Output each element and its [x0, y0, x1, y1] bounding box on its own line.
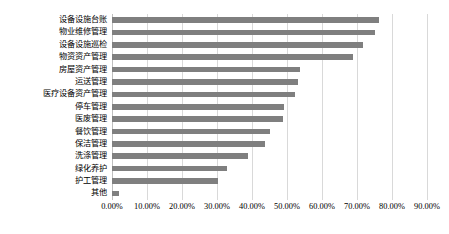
x-tick-label: 70.00% — [344, 201, 370, 213]
bar-row[interactable] — [112, 51, 427, 63]
x-tick-label: 50.00% — [274, 201, 300, 213]
bar-row[interactable] — [112, 76, 427, 88]
bar-row[interactable] — [112, 14, 427, 26]
category-axis-labels: 设备设施台账物业维修管理设备设施巡检物资资产管理房屋资产管理运送管理医疗设备资产… — [0, 14, 110, 200]
x-tick-label: 10.00% — [134, 201, 160, 213]
bar-row[interactable] — [112, 26, 427, 38]
category-label: 运送管理 — [0, 76, 110, 88]
category-label: 绿化养护 — [0, 163, 110, 175]
bar-row[interactable] — [112, 138, 427, 150]
bars-container — [112, 14, 427, 200]
bar-row[interactable] — [112, 64, 427, 76]
x-tick-label: 90.00% — [414, 201, 440, 213]
category-label: 餐饮管理 — [0, 126, 110, 138]
bar-row[interactable] — [112, 88, 427, 100]
x-tick-label: 80.00% — [379, 201, 405, 213]
bar[interactable] — [112, 17, 379, 23]
x-tick-label: 40.00% — [239, 201, 265, 213]
category-label: 护工管理 — [0, 175, 110, 187]
gridline-9000 — [427, 14, 428, 200]
bar-row[interactable] — [112, 150, 427, 162]
category-label: 物业维修管理 — [0, 26, 110, 38]
plot-area — [112, 14, 427, 200]
category-label: 物资资产管理 — [0, 51, 110, 63]
bar[interactable] — [112, 141, 265, 147]
category-label: 医疗设备资产管理 — [0, 88, 110, 100]
bar[interactable] — [112, 67, 300, 73]
bar-row[interactable] — [112, 187, 427, 199]
bar[interactable] — [112, 129, 270, 135]
bar[interactable] — [112, 54, 353, 60]
bar[interactable] — [112, 104, 284, 110]
bar-row[interactable] — [112, 113, 427, 125]
bar[interactable] — [112, 153, 248, 159]
bar[interactable] — [112, 79, 298, 85]
x-tick-label: 20.00% — [169, 201, 195, 213]
horizontal-bar-chart: 设备设施台账物业维修管理设备设施巡检物资资产管理房屋资产管理运送管理医疗设备资产… — [0, 0, 449, 234]
bar[interactable] — [112, 178, 218, 184]
category-label: 设备设施巡检 — [0, 39, 110, 51]
bar[interactable] — [112, 191, 119, 197]
bar-row[interactable] — [112, 39, 427, 51]
bar-row[interactable] — [112, 175, 427, 187]
bar-row[interactable] — [112, 101, 427, 113]
category-label: 停车管理 — [0, 101, 110, 113]
category-label: 设备设施台账 — [0, 14, 110, 26]
x-tick-label: 30.00% — [204, 201, 230, 213]
category-label: 保洁管理 — [0, 138, 110, 150]
x-tick-label: 60.00% — [309, 201, 335, 213]
bar-row[interactable] — [112, 163, 427, 175]
bar[interactable] — [112, 166, 227, 172]
category-label: 其他 — [0, 187, 110, 199]
bar[interactable] — [112, 116, 283, 122]
bar-row[interactable] — [112, 126, 427, 138]
category-label: 洗涤管理 — [0, 150, 110, 162]
bar[interactable] — [112, 30, 375, 36]
bar[interactable] — [112, 42, 363, 48]
category-label: 医废管理 — [0, 113, 110, 125]
bar[interactable] — [112, 92, 295, 98]
x-tick-label: 0.00% — [101, 201, 123, 213]
category-label: 房屋资产管理 — [0, 64, 110, 76]
value-axis-labels: 0.00%10.00%20.00%30.00%40.00%50.00%60.00… — [0, 201, 449, 219]
